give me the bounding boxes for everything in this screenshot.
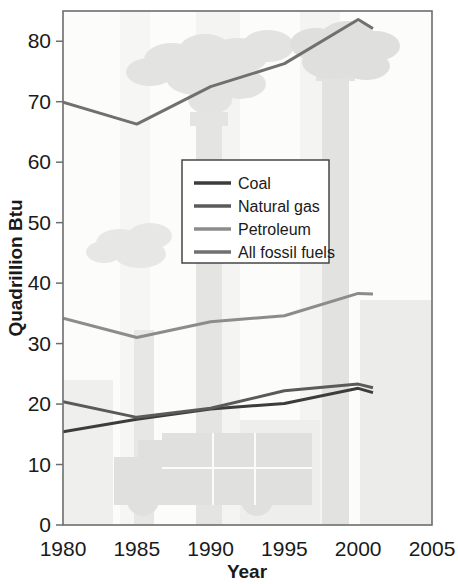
- smokestack-far-right-icon: [360, 300, 432, 525]
- legend-label-coal: Coal: [238, 175, 271, 192]
- legend-label-petroleum: Petroleum: [238, 221, 311, 238]
- y-tick-label: 30: [28, 332, 51, 355]
- y-tick-label: 70: [28, 90, 51, 113]
- chart-legend: CoalNatural gasPetroleumAll fossil fuels: [182, 160, 335, 263]
- y-axis-tick-labels: 01020304050607080: [28, 29, 51, 536]
- x-tick-label: 1995: [261, 537, 308, 560]
- x-tick-label: 2005: [409, 537, 456, 560]
- fossil-fuel-consumption-line-chart: 01020304050607080 1980198519901995200020…: [0, 0, 458, 584]
- y-axis-title: Quadrillion Btu: [5, 199, 26, 336]
- y-tick-label: 50: [28, 211, 51, 234]
- y-axis-ticks: [56, 41, 63, 525]
- x-axis-title: Year: [227, 561, 268, 582]
- x-axis-tick-labels: 198019851990199520002005: [40, 537, 456, 560]
- x-tick-label: 1990: [187, 537, 234, 560]
- x-tick-label: 1985: [113, 537, 160, 560]
- y-tick-label: 20: [28, 392, 51, 415]
- y-tick-label: 40: [28, 271, 51, 294]
- x-tick-label: 2000: [335, 537, 382, 560]
- legend-label-natural-gas: Natural gas: [238, 198, 320, 215]
- background-watermark-artwork: [63, 11, 432, 525]
- y-tick-label: 80: [28, 29, 51, 52]
- chart-figure: 01020304050607080 1980198519901995200020…: [0, 0, 458, 584]
- y-tick-label: 10: [28, 453, 51, 476]
- y-tick-label: 0: [39, 513, 51, 536]
- x-tick-label: 1980: [40, 537, 87, 560]
- y-tick-label: 60: [28, 150, 51, 173]
- legend-label-all-fossil-fuels: All fossil fuels: [238, 244, 335, 261]
